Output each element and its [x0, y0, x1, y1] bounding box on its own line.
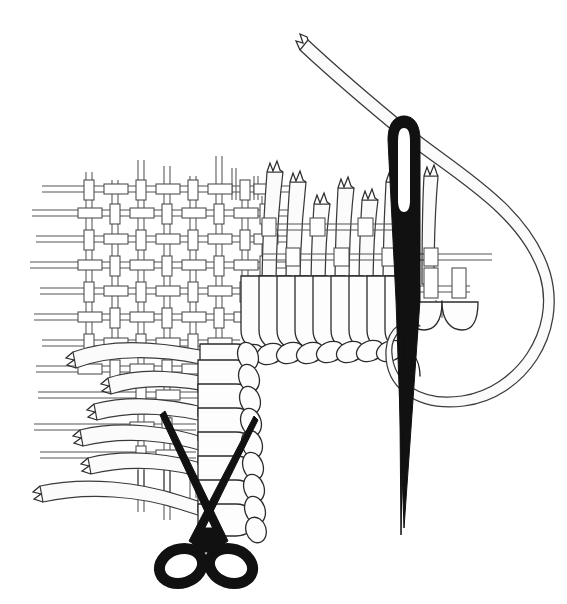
needlework-illustration: Blanket-stitched fringed fabric edge wit… [0, 0, 567, 604]
illustration-canvas: Blanket-stitched fringed fabric edge wit… [0, 0, 567, 604]
